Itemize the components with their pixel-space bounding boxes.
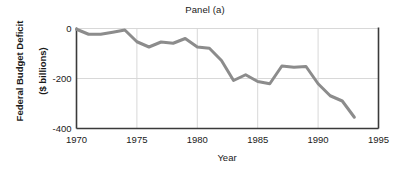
x-tick-label: 1985 (247, 134, 268, 145)
y-tick-label: -400 (52, 123, 71, 134)
x-tick-label: 1995 (368, 134, 389, 145)
data-series-line (77, 29, 355, 117)
x-tick-label: 1980 (187, 134, 208, 145)
x-axis-label: Year (76, 152, 378, 163)
y-tick-labels: 0-200-400 (52, 23, 71, 134)
x-tick-labels: 197019751980198519901995 (66, 134, 389, 145)
x-tick-label: 1970 (66, 134, 87, 145)
x-tick-label: 1990 (308, 134, 329, 145)
y-tick-label: 0 (66, 23, 71, 34)
series-line-federal-budget-deficit (77, 29, 355, 117)
x-tick-label: 1975 (126, 134, 147, 145)
y-tick-label: -200 (52, 73, 71, 84)
plot-area: 0-200-400 197019751980198519901995 (0, 0, 410, 169)
chart-figure: Panel (a) Federal Budget Deficit ($ bill… (0, 0, 410, 169)
grid-lines (77, 29, 379, 129)
